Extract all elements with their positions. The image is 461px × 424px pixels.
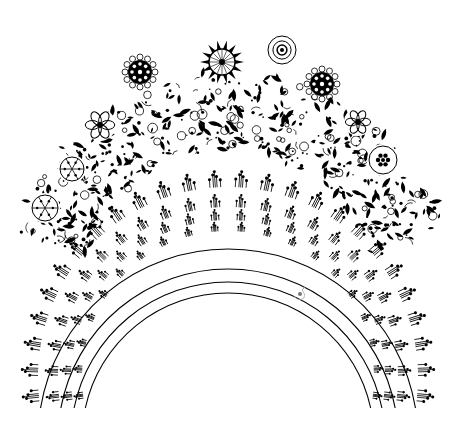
flower-petal-flower bbox=[84, 109, 116, 141]
sprig-motif bbox=[329, 248, 344, 263]
sprig-motif bbox=[21, 363, 39, 377]
sprig-motif bbox=[372, 391, 383, 400]
flower-checker-flower bbox=[122, 54, 158, 90]
sprig-motif bbox=[374, 365, 384, 374]
sprig-motif bbox=[158, 220, 171, 234]
sprig-motif bbox=[381, 338, 394, 349]
sprig-motif bbox=[285, 220, 298, 234]
sprig-motif bbox=[113, 248, 128, 263]
sprig-motif bbox=[407, 309, 428, 327]
sprig-motif bbox=[369, 337, 380, 347]
sprig-motif bbox=[28, 309, 49, 327]
sprig-motif bbox=[330, 266, 343, 279]
sprig-motif bbox=[387, 313, 403, 328]
sprig-motif bbox=[347, 246, 364, 263]
sprig-motif bbox=[398, 365, 412, 376]
sprig-motif bbox=[183, 212, 195, 225]
sprig-motif bbox=[154, 179, 173, 200]
sprig-motif bbox=[134, 232, 148, 247]
sprig-motif bbox=[263, 226, 273, 238]
sprig-motif bbox=[261, 212, 273, 225]
sprig-motif bbox=[362, 289, 377, 303]
sprig-motif bbox=[347, 267, 362, 281]
sprig-motif bbox=[92, 246, 109, 263]
flower-spoke-flower bbox=[58, 155, 86, 183]
sprig-motif bbox=[128, 189, 148, 211]
sprig-motif bbox=[210, 209, 220, 221]
sprig-motif bbox=[183, 226, 193, 238]
sprig-motif bbox=[377, 288, 394, 304]
sprig-motif bbox=[368, 238, 390, 260]
flower-checker-flower bbox=[304, 66, 340, 102]
arch-ring bbox=[59, 209, 396, 408]
sprig-motif bbox=[287, 235, 298, 247]
sprig-motif bbox=[62, 338, 75, 349]
signature-mark bbox=[294, 287, 305, 300]
artwork-canvas bbox=[0, 0, 461, 424]
flower-dot-flower bbox=[367, 144, 399, 176]
sprig-motif bbox=[157, 235, 168, 247]
sprig-motif bbox=[307, 214, 323, 231]
sprig-motif bbox=[236, 209, 246, 221]
sprig-motif bbox=[237, 222, 246, 232]
sprig-motif bbox=[50, 259, 72, 280]
sprig-motif bbox=[310, 248, 322, 261]
sprig-motif bbox=[284, 204, 299, 220]
sprig-motif bbox=[183, 197, 196, 212]
flower-spoke-flower bbox=[30, 193, 60, 223]
sprig-motif bbox=[363, 266, 380, 283]
sprig-motif bbox=[416, 389, 435, 404]
sprig-motif bbox=[260, 197, 273, 212]
sprig-motif bbox=[95, 267, 110, 281]
sprig-motif bbox=[350, 218, 372, 240]
sprig-motif bbox=[234, 170, 249, 188]
sprig-motif bbox=[384, 259, 406, 280]
sprig-motif bbox=[37, 283, 59, 303]
sprig-motif bbox=[134, 248, 146, 261]
sprig-motif bbox=[235, 194, 247, 208]
sprig-motif bbox=[385, 365, 397, 375]
flower-ringed-circle bbox=[266, 34, 298, 66]
sprig-motif bbox=[209, 194, 221, 208]
flower-petal-flower bbox=[344, 108, 372, 136]
sprig-motif bbox=[259, 172, 276, 192]
sprig-motif bbox=[307, 189, 327, 211]
sprig-motif bbox=[76, 337, 87, 347]
sprig-motif bbox=[105, 202, 126, 224]
sprig-motif bbox=[394, 338, 409, 351]
sprig-motif bbox=[21, 389, 40, 404]
sprig-motif bbox=[76, 266, 93, 283]
sprig-motif bbox=[210, 222, 219, 232]
sprig-motif bbox=[47, 338, 62, 351]
sprig-motif bbox=[112, 229, 129, 246]
sprig-motif bbox=[113, 266, 126, 279]
sprig-motif bbox=[133, 214, 149, 231]
sprig-motif bbox=[53, 313, 69, 328]
sprig-motif bbox=[414, 335, 433, 352]
flower-sunburst-flower bbox=[200, 40, 244, 84]
sprig-motif bbox=[207, 170, 222, 188]
floral-wreath bbox=[20, 34, 443, 258]
sprig-motif bbox=[328, 229, 345, 246]
sprig-motif bbox=[308, 232, 322, 247]
sprig-motif bbox=[80, 289, 95, 303]
sprig-motif bbox=[72, 365, 82, 374]
sprig-motif bbox=[23, 335, 42, 352]
sprig-motif bbox=[397, 283, 419, 303]
sprig-motif bbox=[284, 179, 303, 200]
sprig-motif bbox=[157, 204, 172, 220]
sprig-motif bbox=[180, 172, 197, 192]
sprig-motif bbox=[73, 391, 84, 400]
sprig-motif bbox=[396, 390, 411, 402]
sprig-motif bbox=[44, 365, 58, 376]
sprig-motif bbox=[62, 288, 79, 304]
sprig-motif bbox=[418, 363, 436, 377]
sprig-motif bbox=[45, 390, 60, 402]
sprig-motif bbox=[59, 365, 71, 375]
